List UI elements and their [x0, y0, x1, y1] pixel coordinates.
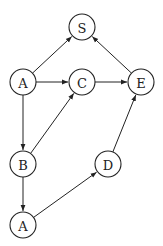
node-label: A: [17, 76, 28, 91]
node-b: B: [10, 151, 36, 177]
edge-a-to-s: [33, 37, 72, 74]
node-label: D: [103, 158, 113, 173]
node-s: S: [69, 14, 95, 40]
node-a2: A: [10, 212, 36, 238]
nodes-layer: SACEBDA: [10, 14, 154, 238]
node-a1: A: [10, 69, 36, 95]
edge-b-to-c: [31, 93, 74, 153]
node-label: B: [18, 158, 28, 173]
node-label: S: [78, 21, 87, 36]
node-label: A: [17, 219, 28, 234]
directed-graph: SACEBDA: [0, 0, 163, 246]
node-e: E: [128, 69, 154, 95]
edge-d-to-e: [113, 95, 136, 152]
node-label: E: [136, 76, 146, 91]
edge-e-to-s: [92, 37, 131, 74]
node-label: C: [77, 76, 87, 91]
node-c: C: [69, 69, 95, 95]
edge-a-to-d: [34, 172, 97, 217]
node-d: D: [95, 151, 121, 177]
edges-layer: [23, 37, 136, 218]
